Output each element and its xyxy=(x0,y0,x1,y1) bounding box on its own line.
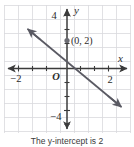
x-axis-label: x xyxy=(117,52,123,64)
y-axis-label: y xyxy=(73,4,79,16)
y-intercept-point-label: (0, 2) xyxy=(71,35,93,47)
coordinate-plane-svg: y 4 −4 x −2 2 O (0, 2) xyxy=(0,0,134,134)
y-tick-label-neg4: −4 xyxy=(50,111,62,122)
origin-label: O xyxy=(52,71,60,82)
coordinate-plane: y 4 −4 x −2 2 O (0, 2) xyxy=(0,0,134,134)
graph-figure: y 4 −4 x −2 2 O (0, 2) The y-intercept i… xyxy=(0,0,134,147)
figure-caption: The y-intercept is 2 xyxy=(0,135,134,147)
x-tick-label-2: 2 xyxy=(107,74,112,85)
y-intercept-point-marker xyxy=(64,38,69,43)
x-tick-label-neg2: −2 xyxy=(10,73,21,84)
y-tick-label-4: 4 xyxy=(51,10,57,21)
